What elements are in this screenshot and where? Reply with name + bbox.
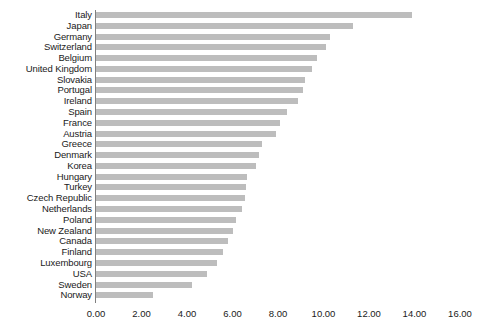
y-tick-mark [92, 155, 95, 156]
y-tick-mark [92, 144, 95, 145]
bar [96, 152, 259, 158]
bar-row [96, 107, 460, 118]
y-tick-mark [92, 90, 95, 91]
bar-row [96, 118, 460, 129]
y-tick-mark [92, 231, 95, 232]
bar-row [96, 42, 460, 53]
bar-row [96, 280, 460, 291]
y-tick-mark [92, 252, 95, 253]
bar [96, 34, 330, 40]
y-axis-label-france: France [63, 118, 92, 129]
bar-row [96, 150, 460, 161]
bar [96, 12, 412, 18]
bar [96, 87, 303, 93]
bar-row [96, 10, 460, 21]
bar [96, 98, 298, 104]
bar [96, 217, 236, 223]
y-tick-mark [92, 198, 95, 199]
bar [96, 238, 228, 244]
x-axis-tick-8-00: 8.00 [269, 308, 288, 320]
y-tick-mark [92, 241, 95, 242]
bar-row [96, 204, 460, 215]
bar [96, 55, 317, 61]
y-axis-label-usa: USA [73, 269, 92, 280]
bar-row [96, 258, 460, 269]
bar [96, 174, 247, 180]
bar [96, 228, 233, 234]
x-axis-line [95, 303, 460, 304]
bar [96, 282, 192, 288]
bar [96, 131, 276, 137]
x-axis-tick-10-00: 10.00 [312, 308, 336, 320]
y-tick-mark [92, 47, 95, 48]
x-axis-tick-0-00: 0.00 [87, 308, 106, 320]
y-tick-mark [92, 134, 95, 135]
bar [96, 184, 246, 190]
bar-row [96, 269, 460, 280]
bar-row [96, 53, 460, 64]
bar-row [96, 247, 460, 258]
bar [96, 206, 242, 212]
y-tick-mark [92, 80, 95, 81]
y-axis-label-japan: Japan [67, 21, 92, 32]
bar [96, 109, 287, 115]
y-axis-label-poland: Poland [63, 215, 92, 226]
bar [96, 249, 223, 255]
bar-row [96, 21, 460, 32]
bar [96, 120, 280, 126]
x-axis-tick-16-00: 16.00 [448, 308, 472, 320]
bar-row [96, 64, 460, 75]
bar [96, 271, 207, 277]
bar-row [96, 32, 460, 43]
bar-row [96, 193, 460, 204]
bar [96, 292, 153, 298]
y-tick-mark [92, 295, 95, 296]
y-tick-mark [92, 274, 95, 275]
bar [96, 77, 305, 83]
y-tick-mark [92, 15, 95, 16]
bar-chart: ItalyJapanGermanySwitzerlandBelgiumUnite… [0, 0, 489, 336]
bar [96, 44, 326, 50]
bar-row [96, 96, 460, 107]
bar [96, 163, 256, 169]
plot-area [96, 10, 460, 302]
x-axis-tick-4-00: 4.00 [178, 308, 197, 320]
y-tick-mark [92, 220, 95, 221]
bar [96, 66, 312, 72]
y-tick-mark [92, 177, 95, 178]
x-axis-tick-2-00: 2.00 [132, 308, 151, 320]
bar-row [96, 85, 460, 96]
bar-row [96, 129, 460, 140]
bar-row [96, 182, 460, 193]
bar [96, 141, 262, 147]
bar-row [96, 226, 460, 237]
y-axis-label-norway: Norway [60, 290, 92, 301]
bar [96, 23, 353, 29]
y-tick-mark [92, 26, 95, 27]
y-tick-mark [92, 263, 95, 264]
y-tick-mark [92, 285, 95, 286]
bar-row [96, 236, 460, 247]
x-axis-tick-12-00: 12.00 [357, 308, 381, 320]
bar-row [96, 215, 460, 226]
bar-row [96, 161, 460, 172]
bar [96, 195, 245, 201]
y-tick-mark [92, 166, 95, 167]
bar-row [96, 290, 460, 301]
y-tick-mark [92, 123, 95, 124]
x-axis-tick-6-00: 6.00 [223, 308, 242, 320]
y-tick-mark [92, 209, 95, 210]
bar-row [96, 75, 460, 86]
y-tick-mark [92, 187, 95, 188]
y-tick-mark [92, 101, 95, 102]
y-tick-mark [92, 37, 95, 38]
y-tick-mark [92, 112, 95, 113]
bar-row [96, 139, 460, 150]
x-axis-tick-14-00: 14.00 [403, 308, 427, 320]
y-tick-mark [92, 69, 95, 70]
y-tick-mark [92, 58, 95, 59]
bar-row [96, 172, 460, 183]
bar [96, 260, 217, 266]
